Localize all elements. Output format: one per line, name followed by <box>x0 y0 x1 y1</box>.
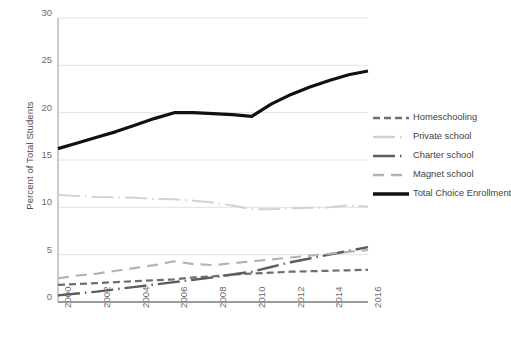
legend-label-magnet-school: Magnet school <box>413 169 473 180</box>
chart-legend: Homeschooling Private school Charter sch… <box>372 108 510 203</box>
line-chart: Percent of Total Students 051015202530 2… <box>0 0 511 342</box>
legend-label-private-school: Private school <box>413 131 471 142</box>
legend-key-charter-school <box>372 150 410 162</box>
legend-label-total-choice-enrollment: Total Choice Enrollment <box>413 188 511 199</box>
legend-key-homeschooling <box>372 112 410 124</box>
legend-key-magnet-school <box>372 169 410 181</box>
legend-item-magnet-school[interactable]: Magnet school <box>372 165 510 184</box>
legend-label-homeschooling: Homeschooling <box>413 112 477 123</box>
legend-item-charter-school[interactable]: Charter school <box>372 146 510 165</box>
series-line-total-choice-enrollment <box>58 71 368 149</box>
legend-key-private-school <box>372 131 410 143</box>
legend-label-charter-school: Charter school <box>413 150 473 161</box>
legend-key-total-choice-enrollment <box>372 188 410 200</box>
legend-item-private-school[interactable]: Private school <box>372 127 510 146</box>
legend-item-homeschooling[interactable]: Homeschooling <box>372 108 510 127</box>
legend-item-total-choice-enrollment[interactable]: Total Choice Enrollment <box>372 184 510 203</box>
